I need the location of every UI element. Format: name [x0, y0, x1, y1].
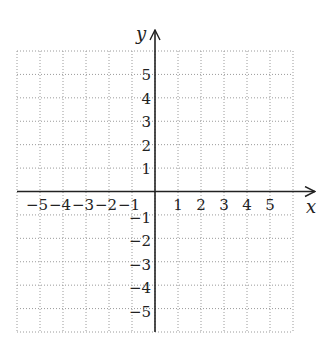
y-tick-label: 1 [141, 160, 151, 178]
x-tick-label: −4 [49, 196, 71, 214]
x-tick-label: 5 [265, 196, 275, 214]
x-tick-label: 4 [242, 196, 252, 214]
y-tick-label: −1 [129, 209, 151, 227]
y-tick-label: −4 [129, 279, 151, 297]
x-tick-label: 2 [196, 196, 206, 214]
y-tick-label: −2 [129, 232, 151, 250]
y-tick-label: −5 [129, 303, 151, 321]
x-tick-label: −5 [26, 196, 48, 214]
y-tick-label: 5 [141, 66, 151, 84]
coordinate-plane: −5−4−3−2−112345 −5−4−3−2−112345 x y [0, 0, 332, 345]
y-tick-label: −3 [129, 256, 151, 274]
x-tick-label: −3 [72, 196, 94, 214]
y-axis-label: y [135, 23, 147, 44]
x-tick-label: 1 [173, 196, 183, 214]
y-tick-label: 4 [141, 90, 151, 108]
y-tick-label: 3 [141, 113, 151, 131]
x-tick-label: −2 [95, 196, 117, 214]
x-tick-label: 3 [219, 196, 229, 214]
y-tick-label: 2 [141, 137, 151, 155]
x-axis-label: x [306, 196, 316, 217]
y-tick-labels: −5−4−3−2−112345 [129, 66, 151, 320]
